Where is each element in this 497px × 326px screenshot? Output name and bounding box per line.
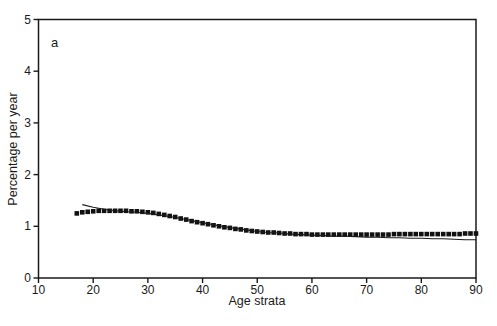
data-point-marker: [386, 232, 391, 237]
data-point-marker: [80, 210, 85, 215]
data-point-marker: [85, 210, 90, 215]
tick-labels: 102030405060708090012345: [24, 13, 483, 298]
x-tick-label: 70: [360, 283, 374, 297]
y-tick-label: 1: [24, 219, 31, 233]
data-point-marker: [359, 232, 364, 237]
data-point-marker: [315, 232, 320, 237]
data-point-marker: [435, 232, 440, 237]
data-point-marker: [364, 232, 369, 237]
data-point-marker: [457, 232, 462, 237]
x-tick-label: 40: [196, 283, 210, 297]
plot-area: 102030405060708090012345: [0, 0, 497, 326]
x-tick-label: 20: [87, 283, 101, 297]
data-point-marker: [425, 232, 430, 237]
x-axis-title: Age strata: [229, 295, 286, 308]
data-point-marker: [91, 209, 96, 214]
data-point-marker: [370, 232, 375, 237]
data-point-marker: [162, 213, 167, 218]
x-tick-label: 60: [305, 283, 319, 297]
data-point-marker: [75, 211, 80, 216]
data-point-marker: [474, 231, 479, 236]
panel-label: a: [51, 36, 58, 49]
data-point-marker: [430, 232, 435, 237]
x-tick-label: 10: [32, 283, 46, 297]
data-point-marker: [96, 209, 101, 214]
axes-frame: [39, 20, 477, 279]
y-tick-label: 0: [24, 271, 31, 285]
chart-figure: 102030405060708090012345 a Percentage pe…: [0, 0, 497, 326]
x-tick-label: 90: [469, 283, 483, 297]
data-point-marker: [408, 232, 413, 237]
data-point-marker: [375, 232, 380, 237]
y-tick-label: 5: [24, 13, 31, 27]
data-point-marker: [304, 232, 309, 237]
data-point-marker: [446, 232, 451, 237]
data-point-marker: [441, 232, 446, 237]
data-point-marker: [414, 232, 419, 237]
x-tick-label: 80: [415, 283, 429, 297]
y-tick-label: 2: [24, 168, 31, 182]
data-point-marker: [468, 231, 473, 236]
data-point-marker: [107, 209, 112, 214]
y-tick-label: 3: [24, 116, 31, 130]
data-point-marker: [452, 232, 457, 237]
data-point-marker: [397, 232, 402, 237]
data-point-marker: [419, 232, 424, 237]
data-point-marker: [129, 209, 134, 214]
x-tick-label: 30: [141, 283, 155, 297]
data-point-marker: [392, 232, 397, 237]
data-point-marker: [463, 231, 468, 236]
data-point-marker: [381, 232, 386, 237]
y-tick-label: 4: [24, 64, 31, 78]
y-axis-title: Percentage per year: [7, 92, 20, 205]
data-point-marker: [403, 232, 408, 237]
tick-marks: [34, 20, 477, 284]
